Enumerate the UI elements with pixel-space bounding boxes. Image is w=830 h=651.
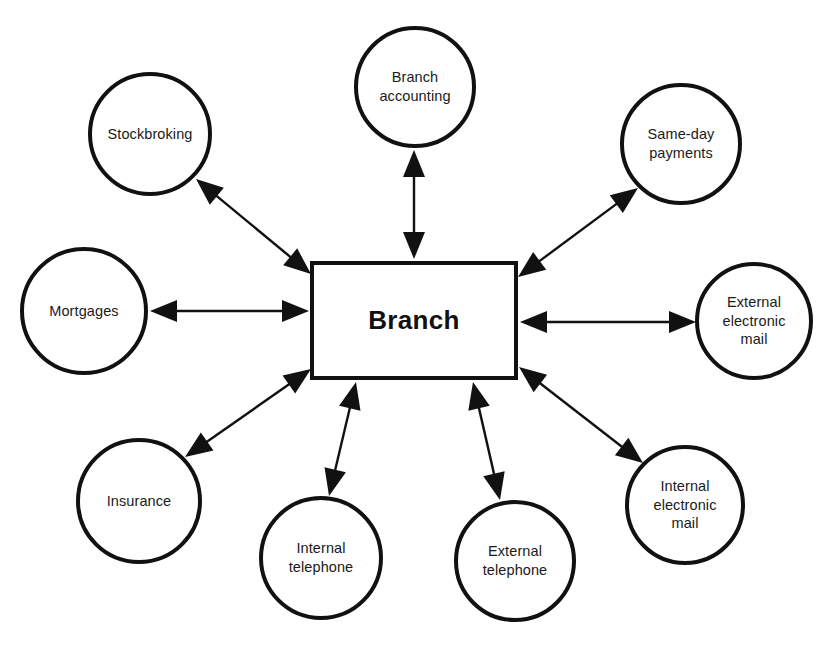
edge-internal-telephone-shaft [335, 406, 350, 471]
node-mortgages[interactable]: Mortgages [20, 247, 148, 375]
node-insurance-label: Insurance [107, 492, 172, 511]
edge-mortgages-arrowhead-to [150, 300, 177, 322]
edge-stockbroking [196, 179, 311, 274]
node-insurance[interactable]: Insurance [76, 438, 202, 564]
diagram-canvas: Branch Branch accountingStockbrokingSame… [0, 0, 830, 651]
edge-external-electronic-mail-arrowhead-to [669, 311, 696, 333]
edge-insurance [185, 369, 311, 457]
edge-mortgages [150, 300, 309, 322]
edge-stockbroking-arrowhead-from [283, 248, 311, 274]
edge-internal-electronic-mail [519, 367, 643, 463]
edge-external-telephone-arrowhead-to [483, 471, 504, 500]
node-branch-label: Branch [368, 305, 459, 336]
edge-insurance-shaft [205, 383, 290, 442]
node-external-electronic-mail-label: External electronic mail [722, 293, 785, 349]
node-branch-accounting[interactable]: Branch accounting [354, 26, 476, 148]
node-same-day-payments-label: Same-day payments [648, 125, 715, 162]
edge-stockbroking-shaft [215, 195, 291, 258]
edge-external-electronic-mail [520, 311, 696, 333]
node-branch[interactable]: Branch [310, 261, 518, 380]
edge-branch-accounting-arrowhead-from [403, 232, 425, 259]
edge-internal-electronic-mail-arrowhead-from [519, 367, 547, 392]
node-external-telephone-label: External telephone [483, 542, 548, 579]
edge-internal-telephone [325, 382, 361, 496]
edge-internal-electronic-mail-arrowhead-to [615, 438, 643, 463]
edge-internal-electronic-mail-shaft [539, 382, 623, 447]
edge-branch-accounting-arrowhead-to [403, 150, 425, 177]
node-internal-telephone[interactable]: Internal telephone [259, 496, 383, 620]
node-same-day-payments[interactable]: Same-day payments [620, 83, 742, 205]
edge-external-telephone-shaft [479, 406, 495, 475]
edge-insurance-arrowhead-to [185, 433, 213, 457]
node-external-telephone[interactable]: External telephone [454, 500, 576, 622]
edge-external-electronic-mail-arrowhead-from [520, 311, 547, 333]
edge-insurance-arrowhead-from [283, 369, 311, 393]
node-internal-telephone-label: Internal telephone [289, 539, 354, 576]
edge-external-telephone [468, 382, 504, 500]
node-internal-electronic-mail-label: Internal electronic mail [653, 477, 716, 533]
node-branch-accounting-label: Branch accounting [379, 68, 450, 105]
edge-same-day-payments-arrowhead-to [610, 188, 638, 213]
node-internal-electronic-mail[interactable]: Internal electronic mail [625, 445, 745, 565]
edge-stockbroking-arrowhead-to [196, 179, 224, 205]
node-stockbroking[interactable]: Stockbroking [88, 72, 212, 196]
edge-branch-accounting [403, 150, 425, 259]
edge-mortgages-arrowhead-from [282, 300, 309, 322]
node-stockbroking-label: Stockbroking [107, 125, 192, 144]
edge-internal-telephone-arrowhead-to [325, 467, 346, 496]
edge-external-telephone-arrowhead-from [468, 382, 489, 411]
edge-same-day-payments-arrowhead-from [518, 252, 546, 277]
edge-same-day-payments [518, 188, 638, 277]
edge-same-day-payments-shaft [538, 203, 618, 262]
node-external-electronic-mail[interactable]: External electronic mail [695, 262, 813, 380]
edge-internal-telephone-arrowhead-from [339, 382, 360, 411]
node-mortgages-label: Mortgages [49, 302, 118, 321]
